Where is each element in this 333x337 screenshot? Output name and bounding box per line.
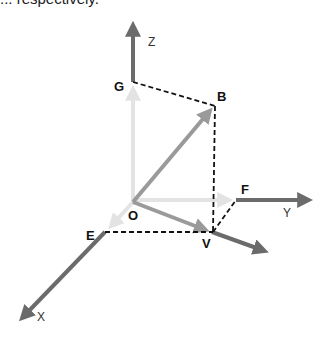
v-direction-axis: [212, 232, 262, 250]
dashed-VF: [213, 200, 236, 232]
label-G: G: [114, 79, 124, 94]
vector-OB: [133, 113, 208, 202]
label-E: E: [86, 228, 95, 243]
vector-OV: [133, 202, 203, 229]
axis-label-z: Z: [148, 35, 155, 49]
label-O: O: [128, 208, 138, 223]
label-F: F: [241, 182, 249, 197]
label-V: V: [202, 236, 211, 251]
axis-label-x: X: [37, 310, 45, 324]
vector-diagram: G B O F V E Z Y X: [0, 0, 333, 337]
dashed-BV: [213, 106, 215, 232]
dashed-GB: [133, 82, 215, 106]
axis-label-y: Y: [283, 206, 291, 220]
x-axis: [24, 232, 105, 316]
label-B: B: [217, 89, 226, 104]
